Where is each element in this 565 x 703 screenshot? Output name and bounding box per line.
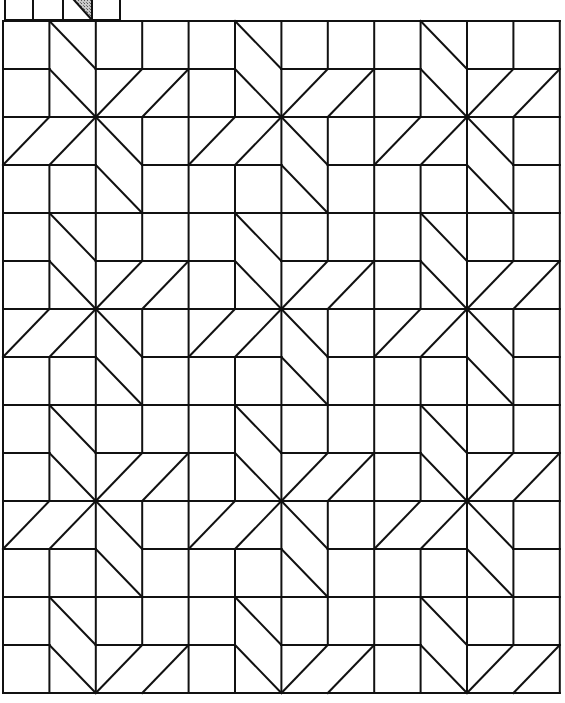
star-arm-diagonal [235,69,281,117]
star-arm-diagonal [49,309,95,357]
star-arm-diagonal [328,69,374,117]
star-arm-diagonal [467,501,513,549]
star-arm-diagonal [49,645,95,693]
star-arm-diagonal [96,645,142,693]
star-arm-diagonal [96,117,142,165]
star-arm-diagonal [513,69,559,117]
star-arm-diagonal [513,645,559,693]
star-arm-diagonal [513,453,559,501]
star-arm-diagonal [421,405,467,453]
star-arm-diagonal [421,597,467,645]
star-arm-diagonal [142,69,188,117]
star-arm-diagonal [467,165,513,213]
star-arm-diagonal [328,645,374,693]
star-arm-diagonal [421,645,467,693]
star-arm-diagonal [281,645,327,693]
star-arm-diagonal [467,261,513,309]
star-arm-diagonal [467,645,513,693]
star-arm-diagonal [3,309,49,357]
star-arm-diagonal [235,405,281,453]
star-arm-diagonal [467,453,513,501]
star-arm-diagonal [235,213,281,261]
star-arm-diagonal [96,501,142,549]
star-arm-diagonal [235,501,281,549]
star-arm-diagonal [467,549,513,597]
star-arm-diagonal [235,597,281,645]
star-arm-diagonal [281,117,327,165]
star-arm-diagonal [328,261,374,309]
star-arm-diagonal [235,453,281,501]
star-arm-diagonal [281,453,327,501]
star-arm-diagonal [281,309,327,357]
star-arm-diagonal [96,165,142,213]
star-arm-diagonal [467,357,513,405]
star-arm-diagonal [235,261,281,309]
star-arm-diagonal [235,21,281,69]
star-arm-diagonal [281,69,327,117]
star-arm-diagonal [49,213,95,261]
star-arm-diagonal [281,261,327,309]
star-arm-diagonal [374,117,420,165]
star-arm-diagonal [96,357,142,405]
star-arm-diagonal [467,309,513,357]
star-arm-diagonal [467,69,513,117]
star-arm-diagonal [189,117,235,165]
star-arm-diagonal [49,597,95,645]
star-arm-diagonal [235,117,281,165]
star-arm-diagonal [49,69,95,117]
star-arm-diagonal [96,261,142,309]
star-arm-diagonal [421,453,467,501]
star-arm-diagonal [467,117,513,165]
star-arm-diagonal [49,453,95,501]
star-arm-diagonal [189,501,235,549]
star-arm-diagonal [142,453,188,501]
star-arm-diagonal [96,309,142,357]
star-arm-diagonal [281,501,327,549]
star-arm-diagonal [49,405,95,453]
quilt-pattern [0,0,565,703]
star-arm-diagonal [421,213,467,261]
star-arm-diagonal [281,549,327,597]
star-arm-diagonal [49,117,95,165]
star-arm-diagonal [235,309,281,357]
star-arm-diagonal [513,261,559,309]
star-arm-diagonal [328,453,374,501]
star-arm-diagonal [49,21,95,69]
star-arm-diagonal [3,501,49,549]
star-arm-diagonal [96,69,142,117]
star-arm-diagonal [235,645,281,693]
star-arm-diagonal [374,501,420,549]
star-arm-diagonal [49,501,95,549]
star-arm-diagonal [96,453,142,501]
star-arm-diagonal [281,165,327,213]
star-arm-diagonal [189,309,235,357]
star-arm-diagonal [421,117,467,165]
star-arm-diagonal [281,357,327,405]
star-arm-diagonal [421,69,467,117]
star-arm-diagonal [49,261,95,309]
star-arm-diagonal [421,501,467,549]
star-arm-diagonal [96,549,142,597]
star-arm-diagonal [3,117,49,165]
star-arm-diagonal [421,21,467,69]
star-arm-diagonal [142,645,188,693]
star-arm-diagonal [421,309,467,357]
star-arm-diagonal [421,261,467,309]
swatch-strip [5,0,120,20]
star-arm-diagonal [142,261,188,309]
star-arm-diagonal [374,309,420,357]
